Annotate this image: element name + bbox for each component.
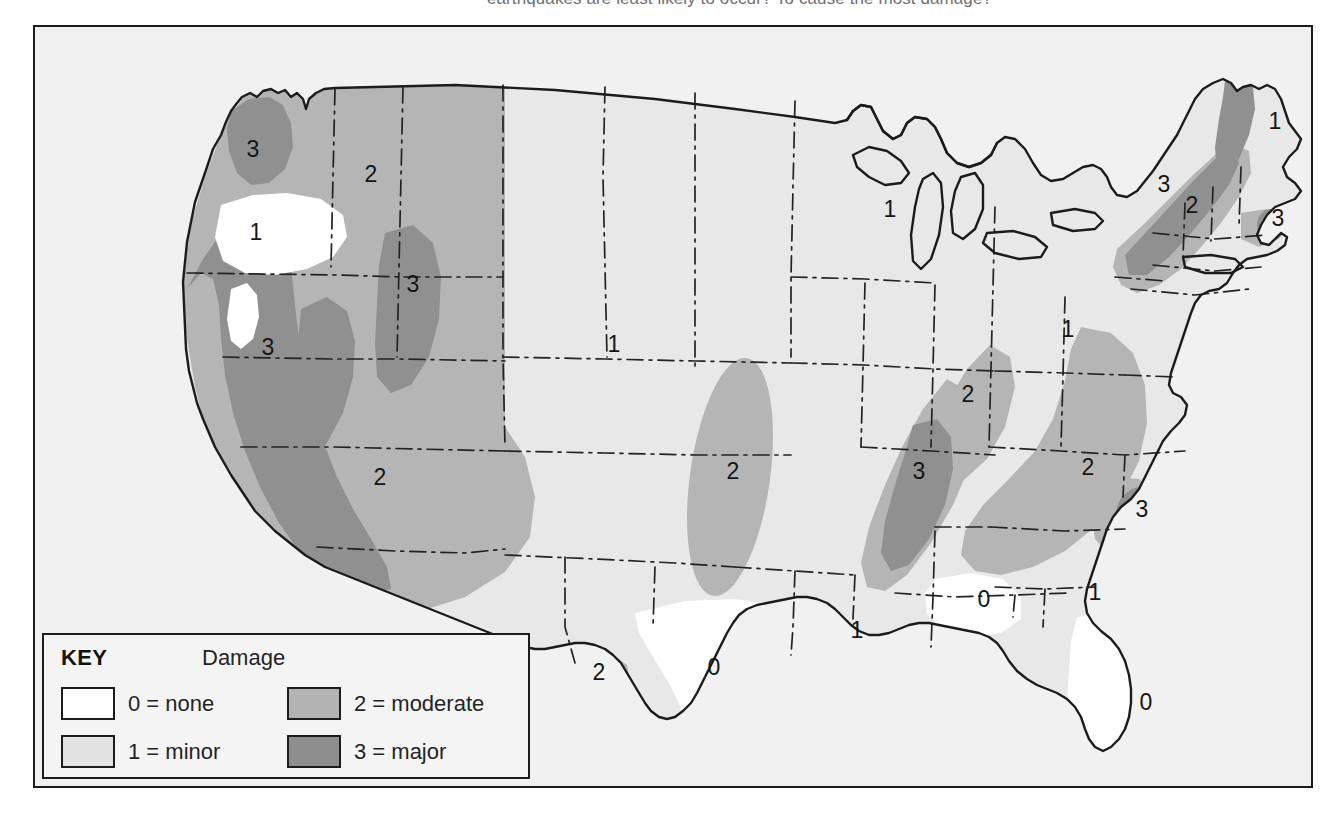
zone-florida-none — [1065, 613, 1139, 769]
zone-label-west-texas-rio-grande: 2 — [593, 659, 606, 685]
legend-item-1: 1 = minor — [61, 735, 220, 768]
zone-label-nebraska-kansas: 2 — [727, 458, 740, 484]
legend-title: KEY — [61, 645, 107, 671]
legend-label-0: 0 = none — [128, 691, 214, 717]
legend-item-0: 0 = none — [61, 687, 214, 720]
legend-swatch-0 — [61, 687, 115, 720]
legend-item-3: 3 = major — [287, 735, 446, 768]
legend-label-1: 1 = minor — [128, 739, 220, 765]
zone-label-southern-appalachian: 2 — [1082, 454, 1095, 480]
zone-label-columbia-basin: 1 — [250, 219, 263, 245]
zone-charleston-moderate — [1091, 477, 1167, 561]
zone-label-florida: 0 — [1140, 689, 1153, 715]
zone-label-georgia: 1 — [1089, 579, 1102, 605]
legend-swatch-3 — [287, 735, 341, 768]
legend-swatch-2 — [287, 687, 341, 720]
zone-label-idaho: 2 — [365, 161, 378, 187]
zone-label-montana-north: 1 — [608, 331, 621, 357]
legend-label-3: 3 = major — [354, 739, 446, 765]
zone-gulf-none — [925, 573, 1021, 637]
zone-label-texas-interior: 0 — [708, 654, 721, 680]
zone-label-new-england-interior: 2 — [1186, 192, 1199, 218]
zone-label-arizona-southwest: 2 — [374, 464, 387, 490]
zone-label-louisiana: 1 — [851, 617, 864, 643]
caption-text: earthquakes are least likely to occur? T… — [487, 0, 992, 9]
legend-heading: Damage — [202, 645, 285, 671]
zone-label-hudson-valley: 3 — [1158, 171, 1171, 197]
zone-label-ohio-valley: 1 — [1062, 316, 1075, 342]
zone-label-gulf-coast: 0 — [978, 586, 991, 612]
zone-label-yellowstone: 3 — [407, 271, 420, 297]
zone-label-pacific-northwest-coast: 3 — [247, 136, 260, 162]
zone-label-great-lakes: 1 — [884, 196, 897, 222]
legend-item-2: 2 = moderate — [287, 687, 484, 720]
zone-label-cape-cod: 3 — [1272, 205, 1285, 231]
map-legend: KEY Damage 0 = none 1 = minor 2 = modera… — [42, 633, 530, 779]
figure-frame: 321332120210013211233231 KEY Damage 0 = … — [33, 25, 1313, 788]
zone-label-charleston-sc: 3 — [1136, 496, 1149, 522]
zone-label-california-nevada: 3 — [262, 334, 275, 360]
caption-strip: earthquakes are least likely to occur? T… — [0, 0, 1344, 16]
legend-swatch-1 — [61, 735, 115, 768]
legend-label-2: 2 = moderate — [354, 691, 484, 717]
zone-label-maine: 1 — [1269, 108, 1282, 134]
zone-label-new-madrid: 3 — [913, 458, 926, 484]
zone-label-wabash-valley: 2 — [962, 381, 975, 407]
